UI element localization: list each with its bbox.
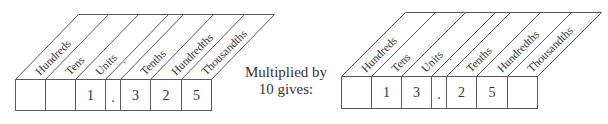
cell-tenths: 2 — [458, 85, 465, 100]
cell-tenths: 3 — [132, 88, 139, 103]
cell-hundredths: 5 — [489, 85, 496, 100]
cell-thousandths: 5 — [193, 88, 200, 103]
header-tenths: Tenths — [138, 47, 168, 77]
header-tens: Tens — [389, 50, 413, 74]
header-units: Units — [419, 48, 445, 74]
cell-decimal-point: . — [111, 90, 115, 105]
caption-line-2: 10 gives: — [226, 81, 346, 98]
place-value-table-after: Hundreds Tens Units . Tenths Hundredths … — [342, 13, 602, 109]
header-tens: Tens — [63, 53, 87, 77]
caption-line-1: Multiplied by — [226, 64, 346, 81]
cell-tens: 1 — [383, 85, 390, 100]
cell-decimal-point: . — [437, 87, 441, 102]
header-tenths: Tenths — [464, 44, 494, 74]
header-units: Units — [93, 51, 119, 77]
place-value-diagram: Hundreds Tens Units . Tenths Hundredths … — [0, 0, 608, 124]
cell-units: 1 — [87, 88, 94, 103]
multiply-caption: Multiplied by 10 gives: — [226, 64, 346, 98]
cell-hundredths: 2 — [163, 88, 170, 103]
cell-units: 3 — [413, 85, 420, 100]
